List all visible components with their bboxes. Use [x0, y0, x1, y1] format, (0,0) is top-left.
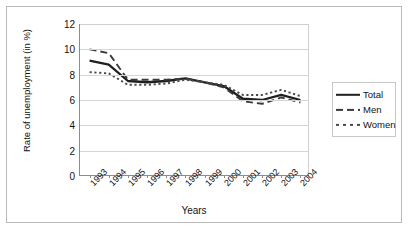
legend-swatch-men-icon — [336, 106, 360, 114]
gridline — [80, 151, 309, 152]
gridline — [80, 49, 309, 50]
legend-item-men: Men — [336, 102, 392, 117]
y-axis-title: Rate of unemployment (in %) — [21, 16, 32, 166]
y-tick-label: 4 — [69, 120, 75, 131]
legend-item-total: Total — [336, 87, 392, 102]
legend-label-total: Total — [363, 89, 383, 100]
plot-area: 024681012 199319941995199619971998199920… — [79, 24, 309, 176]
y-tick-label: 6 — [69, 95, 75, 106]
y-tick-label: 8 — [69, 69, 75, 80]
y-tick-label: 2 — [69, 145, 75, 156]
legend-label-men: Men — [363, 104, 381, 115]
plot-frame-top — [80, 24, 309, 25]
chart-figure: Rate of unemployment (in %) 024681012 19… — [6, 6, 402, 223]
legend-label-women: Women — [363, 119, 396, 130]
legend-item-women: Women — [336, 117, 392, 132]
gridline — [80, 100, 309, 101]
series-line-total — [90, 61, 301, 100]
y-tick-label: 12 — [64, 19, 75, 30]
legend-swatch-total-icon — [336, 91, 360, 99]
y-tick-label: 0 — [69, 171, 75, 182]
y-tick-label: 10 — [64, 44, 75, 55]
chart-legend: Total Men Women — [332, 82, 396, 137]
gridline — [80, 75, 309, 76]
gridline — [80, 125, 309, 126]
legend-swatch-women-icon — [336, 121, 360, 129]
x-axis-title: Years — [79, 205, 309, 216]
